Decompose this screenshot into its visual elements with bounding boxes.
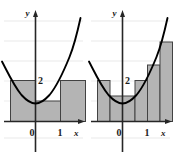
table-row	[123, 96, 136, 122]
right-panel: 2 0 1 x y	[87, 0, 174, 157]
right-origin-label: 0	[117, 127, 122, 138]
right-panel-plot: 2 0 1 x y	[87, 0, 174, 157]
left-y-axis-label: y	[25, 8, 31, 18]
left-panel: 2 0 1 x y	[0, 0, 87, 157]
table-row	[36, 101, 61, 122]
right-riemann-rectangles	[98, 42, 173, 122]
table-row	[110, 96, 123, 122]
riemann-sum-figure: 2 0 1 x y	[0, 0, 174, 157]
left-panel-plot: 2 0 1 x y	[0, 0, 87, 157]
left-origin-label: 0	[30, 127, 35, 138]
left-x-tick-label-1: 1	[58, 127, 63, 138]
left-riemann-rectangles	[11, 81, 86, 122]
left-y-tick-label-2: 2	[38, 75, 43, 86]
right-x-axis-label: x	[160, 128, 166, 138]
left-x-axis-label: x	[73, 128, 79, 138]
table-row	[11, 81, 36, 122]
table-row	[160, 42, 173, 122]
right-y-axis-label: y	[112, 8, 118, 18]
right-y-tick-label-2: 2	[125, 75, 130, 86]
right-x-tick-label-1: 1	[145, 127, 150, 138]
table-row	[61, 81, 86, 122]
